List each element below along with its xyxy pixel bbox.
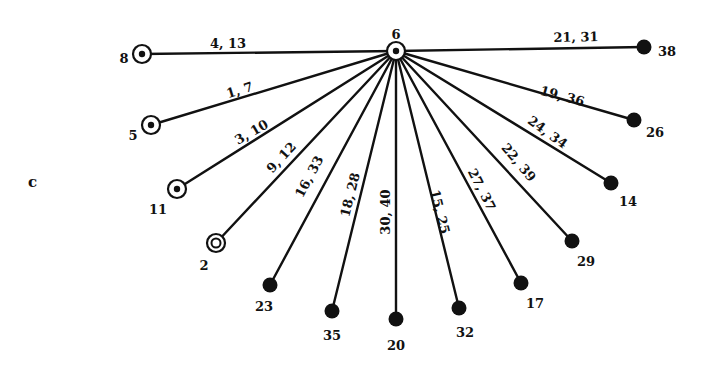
node-26 [627, 113, 642, 128]
edge-label-6-8: 4, 13 [210, 36, 246, 51]
node-20 [389, 312, 404, 327]
edge-6-26 [396, 51, 634, 120]
node-label-35: 35 [323, 328, 341, 343]
nodes [133, 40, 652, 327]
node-label-11: 11 [149, 202, 167, 217]
panel-label: c [28, 173, 37, 191]
edges [142, 47, 644, 319]
edge-label-6-26: 19, 36 [538, 83, 586, 109]
edge-6-38 [396, 47, 644, 51]
node-23 [263, 278, 278, 293]
node-11 [168, 180, 186, 198]
node-label-hub: 6 [391, 27, 400, 42]
edge-label-6-20: 30, 40 [378, 189, 393, 234]
edge-label-6-32: 15, 25 [427, 188, 452, 236]
edge-6-14 [396, 51, 611, 183]
edge-6-35 [332, 51, 396, 311]
node-17 [514, 276, 529, 291]
node-labels: 851122335203217291426386 [119, 27, 676, 353]
edge-label-6-14: 24, 34 [525, 113, 570, 152]
node-label-20: 20 [387, 338, 405, 353]
node-14 [604, 176, 619, 191]
node-32 [452, 301, 467, 316]
edge-6-8 [142, 51, 396, 54]
node-2 [207, 234, 225, 252]
edge-label-6-5: 1, 7 [225, 79, 255, 101]
edge-label-6-35: 18, 28 [337, 171, 362, 219]
node-label-14: 14 [619, 194, 637, 209]
node-35 [325, 304, 340, 319]
edge-label-6-29: 22, 39 [498, 140, 539, 184]
node-label-29: 29 [577, 254, 595, 269]
edge-label-6-2: 9, 12 [263, 139, 299, 176]
star-network-diagram: c 4, 131, 73, 109, 1216, 3318, 2830, 401… [0, 0, 708, 366]
node-label-38: 38 [658, 44, 676, 59]
node-5 [142, 116, 160, 134]
node-label-17: 17 [526, 296, 544, 311]
node-label-5: 5 [128, 128, 137, 143]
node-hub-6 [387, 42, 405, 60]
node-label-26: 26 [646, 125, 664, 140]
node-label-23: 23 [255, 299, 273, 314]
edge-label-6-23: 16, 33 [292, 153, 326, 200]
node-29 [565, 234, 580, 249]
edge-6-23 [270, 51, 396, 285]
node-38 [637, 40, 652, 55]
edge-6-32 [396, 51, 459, 308]
node-label-8: 8 [119, 51, 128, 66]
node-label-32: 32 [456, 325, 474, 340]
node-label-2: 2 [199, 258, 208, 273]
node-8 [133, 45, 151, 63]
edge-6-5 [151, 51, 396, 125]
edge-label-6-38: 21, 31 [553, 29, 598, 45]
